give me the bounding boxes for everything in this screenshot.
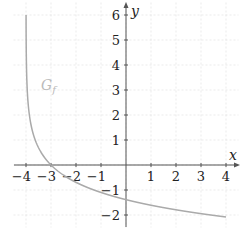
y-tick-label: 1 bbox=[112, 133, 120, 148]
x-tick-label: 1 bbox=[147, 169, 155, 184]
y-axis-label: y bbox=[130, 3, 140, 19]
y-tick-label: 6 bbox=[112, 8, 120, 23]
x-tick-label: −4 bbox=[12, 169, 31, 184]
x-axis-label: x bbox=[229, 147, 237, 163]
x-tick-label: 4 bbox=[222, 169, 230, 184]
y-tick-label: −2 bbox=[101, 208, 120, 223]
x-axis-arrow-icon bbox=[234, 163, 240, 168]
y-tick-label: 4 bbox=[112, 58, 120, 73]
y-tick-label: 3 bbox=[112, 83, 120, 98]
x-tick-label: 2 bbox=[172, 169, 180, 184]
tick-labels: −4−3−2−11234−2−1123456 bbox=[12, 8, 230, 223]
y-tick-label: 2 bbox=[112, 108, 120, 123]
x-tick-label: −1 bbox=[87, 169, 106, 184]
x-tick-label: 3 bbox=[197, 169, 205, 184]
curve-label: Gf bbox=[41, 77, 58, 95]
function-plot: −4−3−2−11234−2−1123456 x y Gf bbox=[0, 0, 248, 240]
x-tick-label: −3 bbox=[37, 169, 56, 184]
y-axis-arrow-icon bbox=[124, 2, 129, 8]
y-tick-label: 5 bbox=[112, 33, 120, 48]
